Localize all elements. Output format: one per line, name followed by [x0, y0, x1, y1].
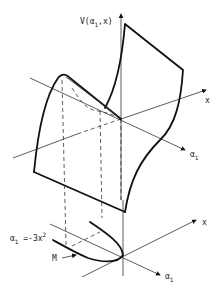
projection-lines	[62, 80, 121, 245]
v-axis-label: V(α1,x)	[80, 17, 113, 28]
upper-alpha-label: α1	[190, 150, 199, 161]
potential-surface	[34, 24, 183, 212]
upper-x-label: x	[205, 96, 210, 105]
upper-x-axis-back2	[13, 133, 80, 158]
m-arrow	[62, 255, 76, 258]
upper-x-axis	[121, 90, 206, 119]
surface-bottom-edge	[34, 172, 125, 212]
parabola-equation-label: α1 =-3x2	[10, 231, 47, 245]
m-label: M	[52, 254, 57, 263]
surface-left-edge	[34, 75, 121, 172]
lower-x-label: x	[202, 218, 207, 227]
lower-dashed-link	[72, 232, 100, 246]
lower-alpha-label: α1	[165, 272, 174, 283]
lower-axes	[50, 200, 196, 277]
potential-surface-diagram: V(α1,x) x α1 x α1 α1 =-3x2 M	[0, 0, 219, 294]
